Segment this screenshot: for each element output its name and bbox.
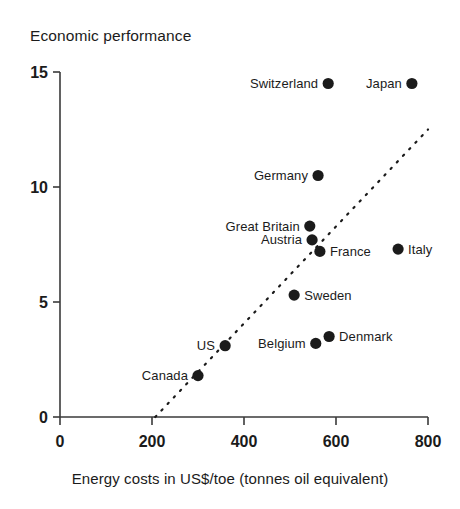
data-points: SwitzerlandJapanGermanyGreat BritainAust… — [142, 76, 433, 383]
data-point-label: Switzerland — [250, 76, 318, 91]
data-point: France — [314, 244, 371, 259]
x-axis-label: Energy costs in US$/toe (tonnes oil equi… — [72, 470, 389, 487]
data-point-marker — [323, 78, 334, 89]
data-point-marker — [324, 331, 335, 342]
data-point: Austria — [261, 232, 318, 247]
x-tick-label: 400 — [231, 433, 258, 450]
x-axis-ticks: 0200400600800 — [56, 417, 442, 450]
chart-canvas: Economic performance 051015 020040060080… — [0, 0, 460, 509]
data-point-label: France — [330, 244, 371, 259]
data-point: Switzerland — [250, 76, 334, 91]
data-point: US — [197, 338, 231, 353]
data-point-label: Italy — [408, 242, 433, 257]
data-point: Germany — [254, 168, 324, 183]
data-point-label: Denmark — [339, 329, 393, 344]
data-point-marker — [406, 78, 417, 89]
data-point: Italy — [393, 242, 433, 257]
y-axis-ticks: 051015 — [30, 64, 60, 426]
data-point-marker — [312, 170, 323, 181]
data-point-marker — [393, 244, 404, 255]
data-point: Denmark — [324, 329, 393, 344]
data-point-label: Japan — [366, 76, 402, 91]
data-point-label: Belgium — [258, 336, 306, 351]
x-tick-label: 600 — [323, 433, 350, 450]
scatter-chart: Economic performance 051015 020040060080… — [0, 0, 460, 509]
data-point: Canada — [142, 368, 204, 383]
data-point: Sweden — [289, 288, 352, 303]
data-point-marker — [304, 221, 315, 232]
x-tick-label: 800 — [415, 433, 442, 450]
data-point-marker — [314, 246, 325, 257]
y-tick-label: 15 — [30, 64, 48, 81]
data-point-marker — [310, 338, 321, 349]
data-point-label: Sweden — [304, 288, 352, 303]
data-point-marker — [192, 370, 203, 381]
data-point-label: Austria — [261, 232, 303, 247]
y-tick-label: 5 — [39, 294, 48, 311]
data-point-marker — [289, 290, 300, 301]
data-point-marker — [220, 340, 231, 351]
y-tick-label: 0 — [39, 409, 48, 426]
x-tick-label: 200 — [139, 433, 166, 450]
y-tick-label: 10 — [30, 179, 48, 196]
data-point-label: Germany — [254, 168, 309, 183]
data-point: Japan — [366, 76, 418, 91]
data-point: Great Britain — [225, 219, 315, 234]
data-point-label: US — [197, 338, 215, 353]
data-point-label: Great Britain — [225, 219, 299, 234]
chart-axes — [60, 72, 428, 417]
x-tick-label: 0 — [56, 433, 65, 450]
data-point-marker — [306, 234, 317, 245]
data-point: Belgium — [258, 336, 321, 351]
chart-title: Economic performance — [30, 27, 191, 44]
data-point-label: Canada — [142, 368, 189, 383]
